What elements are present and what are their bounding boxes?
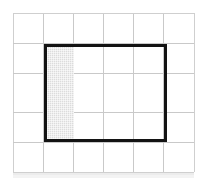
grid-line-vertical	[194, 13, 195, 172]
grid-line-horizontal	[13, 13, 194, 14]
grid-line-horizontal	[13, 142, 194, 143]
rectangle-outline	[44, 44, 167, 142]
page-bottom-band-faint	[13, 175, 194, 178]
geometry-figure: Shaded fraction of a rectangle on a squa…	[0, 0, 200, 180]
grid-line-vertical	[13, 13, 14, 172]
